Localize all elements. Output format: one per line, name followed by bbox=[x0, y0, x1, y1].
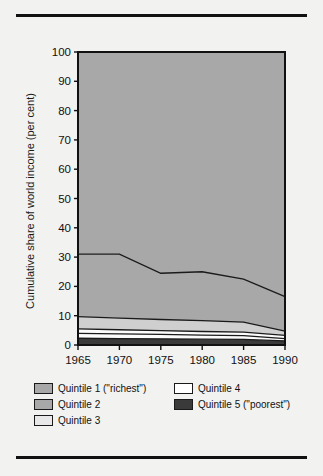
legend-label-quintile-4: Quintile 4 bbox=[198, 383, 240, 394]
x-tick-label-1985: 1985 bbox=[231, 354, 257, 366]
y-tick-label-90: 90 bbox=[58, 75, 71, 87]
chart-legend: Quintile 1 ("richest") Quintile 4 Quinti… bbox=[34, 380, 314, 428]
legend-item-quintile-4: Quintile 4 bbox=[174, 380, 323, 396]
legend-item-quintile-2: Quintile 2 bbox=[34, 396, 174, 412]
figure-container: 0102030405060708090100196519701975198019… bbox=[0, 0, 323, 476]
legend-swatch-quintile-1 bbox=[34, 383, 53, 394]
y-tick-label-50: 50 bbox=[58, 193, 71, 205]
y-tick-label-20: 20 bbox=[58, 280, 71, 292]
legend-item-quintile-3: Quintile 3 bbox=[34, 412, 174, 428]
legend-label-quintile-2: Quintile 2 bbox=[58, 399, 100, 410]
top-divider-rule bbox=[16, 14, 307, 17]
y-tick-label-80: 80 bbox=[58, 105, 71, 117]
y-tick-label-40: 40 bbox=[58, 222, 71, 234]
bottom-divider-rule bbox=[16, 456, 307, 459]
x-tick-label-1970: 1970 bbox=[107, 354, 133, 366]
legend-swatch-quintile-5 bbox=[174, 399, 193, 410]
y-tick-label-30: 30 bbox=[58, 251, 71, 263]
x-tick-label-1965: 1965 bbox=[65, 354, 91, 366]
chart-plot-area: 0102030405060708090100196519701975198019… bbox=[0, 20, 323, 370]
legend-item-quintile-5: Quintile 5 ("poorest") bbox=[174, 396, 323, 412]
legend-item-quintile-1: Quintile 1 ("richest") bbox=[34, 380, 174, 396]
cumulative-income-share-area-chart: 0102030405060708090100196519701975198019… bbox=[0, 20, 323, 370]
legend-label-quintile-5: Quintile 5 ("poorest") bbox=[198, 399, 290, 410]
y-tick-label-100: 100 bbox=[52, 46, 71, 58]
y-tick-label-10: 10 bbox=[58, 310, 71, 322]
legend-label-quintile-3: Quintile 3 bbox=[58, 415, 100, 426]
legend-swatch-quintile-2 bbox=[34, 399, 53, 410]
y-axis-label: Cumulative share of world income (per ce… bbox=[24, 51, 36, 351]
x-tick-label-1980: 1980 bbox=[189, 354, 215, 366]
y-tick-label-70: 70 bbox=[58, 134, 71, 146]
y-tick-label-0: 0 bbox=[65, 339, 71, 351]
legend-label-quintile-1: Quintile 1 ("richest") bbox=[58, 383, 146, 394]
legend-swatch-quintile-4 bbox=[174, 383, 193, 394]
y-tick-label-60: 60 bbox=[58, 163, 71, 175]
x-tick-label-1990: 1990 bbox=[272, 354, 298, 366]
x-tick-label-1975: 1975 bbox=[148, 354, 174, 366]
legend-swatch-quintile-3 bbox=[34, 415, 53, 426]
